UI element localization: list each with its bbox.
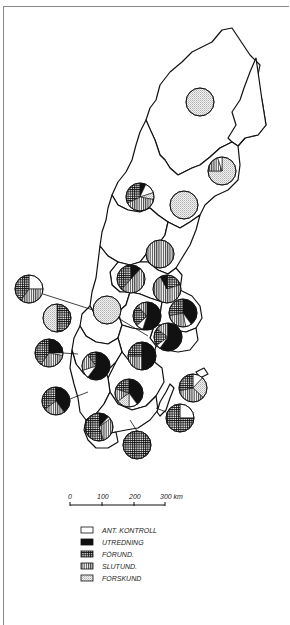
pie-kalmar <box>166 404 194 432</box>
legend: ANT. KONTROLL UTREDNING FÖRUND. SLUTUND.… <box>81 527 157 582</box>
pie-malmohus <box>123 431 151 459</box>
pie-kronoberg <box>85 413 113 441</box>
legend-swatch-slutund <box>81 563 93 569</box>
scale-tick-200: 200 <box>128 493 141 500</box>
legend-swatch-utredning <box>81 539 93 545</box>
pie-norrbotten-coast <box>208 157 236 185</box>
pie-kopparberg <box>153 275 181 303</box>
pie-varmland-outer <box>15 275 43 303</box>
pie-goteborg-outer <box>35 339 63 367</box>
scale-tick-0: 0 <box>68 493 72 500</box>
pie-vasterbotten <box>170 191 198 219</box>
legend-label-slutund: SLUTUND. <box>102 563 137 570</box>
legend-swatch-forskund <box>81 575 93 581</box>
pie-uppsala <box>169 299 197 327</box>
scale-bar: 0 100 200 300 km <box>68 493 183 506</box>
legend-label-forskund: FORSKUND <box>102 575 141 582</box>
pie-ostergotland <box>115 379 143 407</box>
legend-swatch-ant-kontroll <box>81 527 93 533</box>
pie-vastmanland <box>133 302 161 330</box>
pie-stockholm <box>154 323 182 351</box>
pie-jamtland <box>126 183 154 211</box>
pie-vasternorrland <box>146 240 174 268</box>
pie-sodermanland <box>128 342 156 370</box>
legend-label-ant-kontroll: ANT. KONTROLL <box>101 527 157 534</box>
pie-slice-forskund <box>43 304 57 332</box>
county-boundaries <box>70 28 266 448</box>
scale-tick-300: 300 km <box>160 493 183 500</box>
pie-halland-outer <box>42 387 70 415</box>
legend-label-forund: FÖRUND. <box>102 551 134 558</box>
pie-skaraborg <box>82 352 110 380</box>
scale-tick-100: 100 <box>97 493 109 500</box>
pie-slice-forund <box>57 304 71 332</box>
pie-slice-forund <box>179 374 193 391</box>
legend-swatch-forund <box>81 551 93 557</box>
sweden-county-map: 0 100 200 300 km ANT. KONTROLL UTREDNING… <box>0 0 290 625</box>
pie-varmland <box>93 296 121 324</box>
pie-norrbotten <box>186 88 214 116</box>
pie-gotland <box>179 374 207 402</box>
pie-gavleborg <box>117 265 145 293</box>
pie-alvsborg-outer <box>43 304 71 332</box>
legend-label-utredning: UTREDNING <box>102 539 144 546</box>
